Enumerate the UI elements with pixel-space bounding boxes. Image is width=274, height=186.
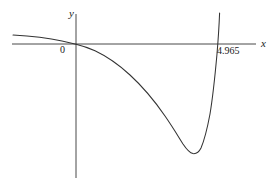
origin-label: 0 [60, 45, 65, 55]
root-tick-label: 4.965 [217, 46, 240, 56]
plot-canvas [0, 0, 274, 186]
curve-path [13, 13, 220, 154]
y-axis-label: y [69, 8, 74, 19]
x-axis-label: x [261, 38, 266, 49]
graph-figure: y x 0 4.965 [0, 0, 274, 186]
